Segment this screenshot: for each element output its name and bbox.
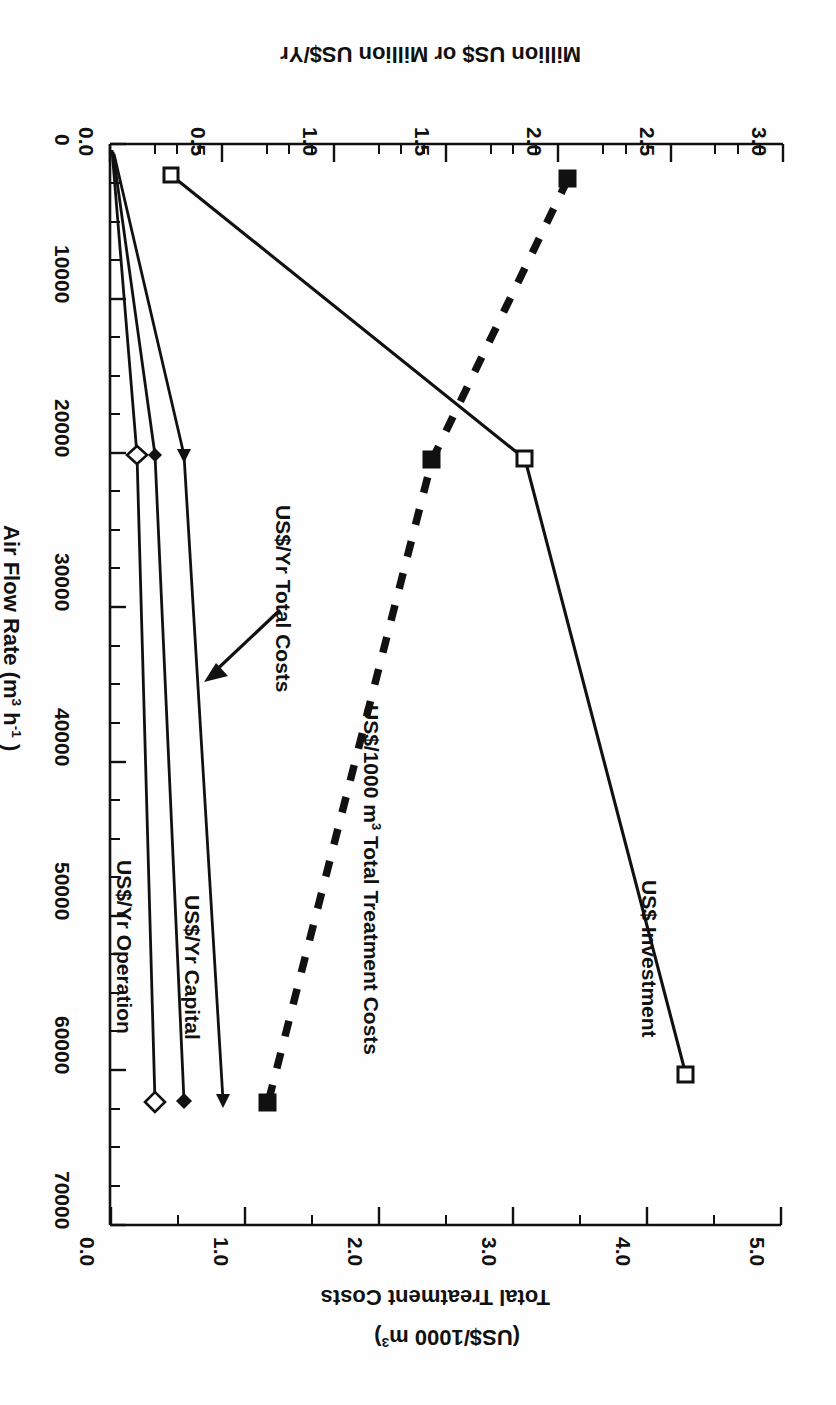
x-axis-title: Air Flow Rate (m3 h-1 )	[0, 525, 24, 751]
y-right-axis-minor-ticks	[178, 1215, 714, 1225]
x-axis-title-mid: h	[0, 706, 24, 726]
series-label-treatment-rest: Total Treatment Costs	[360, 830, 383, 1055]
y-right-axis-title-paren: )	[374, 1325, 381, 1350]
series-label-total-costs: US$/Yr Total Costs	[271, 505, 295, 692]
y-right-tick-label-2-0: 2.0	[343, 1237, 367, 1266]
y-right-axis-title-main: (US$/1000 m	[389, 1325, 520, 1350]
series-label-capital: US$/Yr Capital	[180, 895, 204, 1040]
y-left-axis-ticks	[110, 144, 783, 162]
series-label-total-treatment-costs: US$/1000 m3 Total Treatment Costs	[359, 705, 384, 1055]
series-us-investment	[164, 168, 693, 1082]
series-total-treatment-costs	[259, 170, 576, 1111]
x-tick-label-40000: 40000	[50, 708, 74, 766]
x-tick-label-70000: 70000	[50, 1171, 74, 1229]
y-left-tick-label-1-0: 1.0	[298, 127, 322, 156]
y-left-tick-label-0-0: 0.0	[74, 127, 98, 156]
y-left-tick-label-2-0: 2.0	[522, 127, 546, 156]
data-point-investment-3	[678, 1067, 693, 1082]
rotated-figure-canvas: 0 10000 20000 30000 40000 50000 60000 70…	[0, 0, 836, 1405]
y-left-tick-label-0-5: 0.5	[186, 127, 210, 156]
data-point-treatment-3	[259, 1094, 276, 1111]
y-left-axis-title: Million US$ or Million US$/Yr	[280, 41, 581, 67]
y-right-tick-label-0-0: 0.0	[75, 1237, 99, 1266]
y-left-tick-label-3-0: 3.0	[747, 127, 771, 156]
y-right-tick-label-4-0: 4.0	[611, 1237, 635, 1266]
data-point-investment-1	[164, 168, 178, 182]
y-right-axis-title-sup: 3	[382, 1335, 390, 1350]
y-left-tick-label-1-5: 1.5	[410, 127, 434, 156]
series-label-operation: US$/Yr Operation	[112, 860, 136, 1034]
x-tick-label-30000: 30000	[50, 553, 74, 611]
data-point-operation-3	[145, 1092, 165, 1112]
x-axis-title-sup-minus1: -1	[9, 726, 24, 738]
x-tick-label-20000: 20000	[50, 399, 74, 457]
data-point-treatment-2	[423, 451, 440, 468]
data-point-capital-2	[148, 448, 162, 462]
data-point-total-costs-3	[216, 1094, 230, 1108]
x-tick-label-0: 0	[50, 134, 74, 146]
y-left-axis-minor-ticks	[155, 144, 760, 154]
y-left-tick-label-2-5: 2.5	[635, 127, 659, 156]
data-point-capital-3	[176, 1093, 192, 1109]
data-point-operation-2	[127, 446, 147, 464]
data-point-treatment-1	[559, 170, 576, 187]
x-axis-title-end: )	[0, 738, 24, 751]
chart-plot-area	[0, 0, 836, 1405]
x-axis-minor-ticks	[110, 183, 120, 1186]
y-right-tick-label-5-0: 5.0	[745, 1237, 769, 1266]
y-right-tick-label-3-0: 3.0	[477, 1237, 501, 1266]
x-tick-label-10000: 10000	[50, 245, 74, 303]
series-label-investment: US$ Investment	[637, 880, 661, 1038]
total-costs-arrow	[204, 610, 280, 682]
y-right-axis-title-line2: (US$/1000 m3)	[374, 1324, 520, 1350]
series-label-treatment-main: US$/1000 m	[360, 705, 383, 823]
data-point-total-costs-2	[177, 449, 191, 463]
x-axis-title-main: Air Flow Rate (m	[0, 525, 24, 699]
data-point-investment-2	[517, 451, 532, 466]
y-right-tick-label-1-0: 1.0	[209, 1237, 233, 1266]
figure-page: 0 10000 20000 30000 40000 50000 60000 70…	[0, 0, 836, 1405]
y-right-axis-title-line1: Total Treatment Costs	[321, 1284, 550, 1310]
x-tick-label-60000: 60000	[50, 1016, 74, 1074]
x-tick-label-50000: 50000	[50, 862, 74, 920]
